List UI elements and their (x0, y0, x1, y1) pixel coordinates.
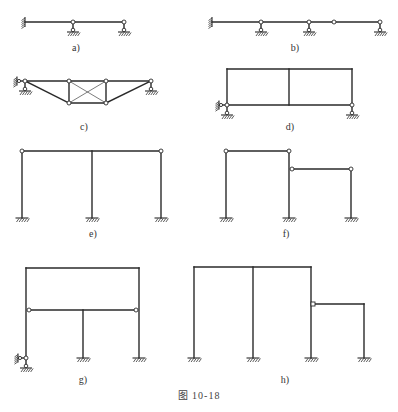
hinge-icon (23, 79, 27, 83)
ground-hatch-icon (67, 32, 80, 36)
structural-diagram-figure: a)b)c)d)e)f)g)h) 图 10-18 (0, 0, 398, 412)
hinge-icon (67, 101, 71, 105)
hinge-icon (225, 103, 229, 107)
panel-label-d: d) (286, 121, 294, 133)
hinge-icon (224, 149, 228, 153)
ground-hatch-icon (145, 91, 158, 95)
members-layer (22, 22, 380, 358)
hinge-icon (122, 20, 126, 24)
supports-layer (14, 17, 388, 372)
hinge-icon (287, 149, 291, 153)
hinge-square-icon (311, 302, 315, 306)
hinge-icon (20, 149, 24, 153)
panel-label-b: b) (291, 42, 299, 54)
fixed-wall-support-icon (216, 101, 220, 112)
panel-h (194, 267, 364, 358)
fixed-wall-support-icon (14, 77, 18, 88)
panel-label-e: e) (89, 228, 97, 240)
hinge-icon (349, 167, 353, 171)
beam-member (106, 81, 151, 103)
panel-f (226, 151, 351, 218)
hinges-layer (20, 20, 382, 360)
panel-label-g: g) (79, 374, 87, 386)
hinge-icon (67, 79, 71, 83)
panel-label-c: c) (80, 121, 88, 133)
ground-hatch-icon (255, 32, 268, 36)
panel-g (26, 268, 139, 358)
hinge-icon (27, 308, 31, 312)
panel-label-f: f) (283, 228, 290, 240)
hinge-icon (350, 103, 354, 107)
ground-hatch-icon (118, 32, 131, 36)
figure-caption: 图 10-18 (178, 390, 221, 401)
hinge-icon (378, 20, 382, 24)
braces-layer (69, 81, 106, 103)
ground-hatch-icon (374, 32, 387, 36)
hinge-icon (290, 167, 294, 171)
panel-label-a: a) (72, 42, 80, 54)
hinge-icon (134, 308, 138, 312)
hinge-icon (159, 149, 163, 153)
fixed-wall-support-icon (209, 17, 213, 29)
ground-hatch-icon (346, 115, 359, 119)
hinge-icon (71, 20, 75, 24)
panel-d (227, 69, 352, 105)
hinge-icon (307, 20, 311, 24)
fixed-wall-support-icon (22, 17, 26, 29)
ground-hatch-icon (221, 115, 234, 119)
panel-e (22, 151, 161, 218)
fixed-wall-support-icon (15, 354, 19, 365)
hinge-icon (24, 356, 28, 360)
hinge-icon (104, 79, 108, 83)
hinge-icon (259, 20, 263, 24)
ground-hatch-icon (19, 91, 32, 95)
hinge-icon (332, 20, 336, 24)
hinge-icon (149, 79, 153, 83)
ground-hatch-icon (20, 368, 33, 372)
hinge-icon (104, 101, 108, 105)
panel-label-h: h) (281, 374, 289, 386)
ground-hatch-icon (303, 32, 316, 36)
